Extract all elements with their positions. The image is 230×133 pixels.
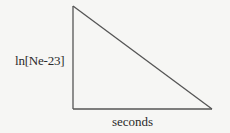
decay-line: [73, 6, 212, 109]
x-axis-label: seconds: [112, 114, 153, 130]
y-axis-label: ln[Ne-23]: [15, 53, 64, 69]
